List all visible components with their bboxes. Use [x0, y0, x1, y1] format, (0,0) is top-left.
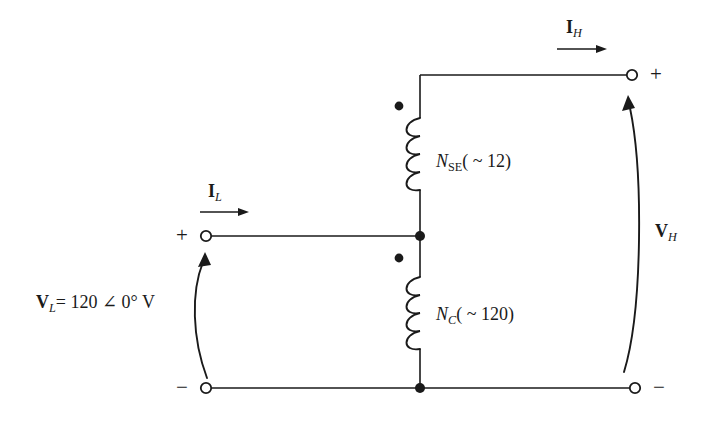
current-arrow-high-side-head	[596, 45, 607, 53]
terminal-low-side-negative	[201, 383, 211, 393]
polarity-sign-high-side-positive: +	[650, 64, 662, 85]
current-label-low-side: IL	[208, 182, 222, 200]
polarity-dot-common-winding	[395, 254, 404, 263]
current-label-low-side-subscript: L	[215, 190, 222, 204]
voltage-arrow-high-side-arc	[624, 108, 639, 372]
current-label-high-side-symbol: I	[566, 17, 573, 37]
voltage-label-low-side-value: = 120 ∠ 0° V	[56, 292, 155, 312]
winding-label-series-turns: ( ~ 12)	[462, 151, 511, 171]
voltage-label-high-side-symbol: V	[655, 221, 668, 241]
terminal-low-side-positive	[201, 231, 211, 241]
voltage-arrow-low-side-arc	[195, 262, 207, 378]
winding-label-common-turns: ( ~ 120)	[456, 304, 514, 324]
terminal-high-side-positive	[627, 70, 637, 80]
polarity-sign-low-side-positive: +	[176, 225, 188, 246]
winding-label-common-subscript: C	[448, 313, 456, 327]
winding-label-common-symbol: N	[436, 304, 448, 324]
voltage-label-low-side: VL= 120 ∠ 0° V	[36, 293, 155, 311]
voltage-label-low-side-symbol: V	[36, 292, 49, 312]
series-winding-coil	[407, 118, 421, 190]
winding-label-common: NC( ~ 120)	[436, 305, 514, 323]
autotransformer-schematic	[0, 0, 727, 428]
current-label-high-side-subscript: H	[573, 26, 582, 40]
junction-dot-bottom	[415, 383, 425, 393]
winding-label-series: NSE( ~ 12)	[436, 152, 511, 170]
voltage-arrow-high-side-head	[622, 95, 635, 111]
common-winding-coil	[407, 277, 421, 349]
terminal-high-side-negative	[630, 383, 640, 393]
voltage-arrow-low-side-head	[198, 252, 211, 267]
polarity-sign-high-side-negative: −	[653, 377, 665, 398]
current-label-high-side: IH	[566, 18, 582, 36]
voltage-label-low-side-subscript: L	[49, 301, 56, 315]
polarity-sign-low-side-negative: −	[176, 377, 188, 398]
voltage-label-high-side: VH	[655, 222, 677, 240]
circuit-diagram-canvas: IH + NSE( ~ 12) IL + VH VL= 120 ∠ 0° V N…	[0, 0, 727, 428]
voltage-label-high-side-subscript: H	[668, 230, 677, 244]
polarity-dot-series-winding	[395, 102, 404, 111]
winding-label-series-subscript: SE	[448, 160, 462, 174]
current-label-low-side-symbol: I	[208, 181, 215, 201]
winding-label-series-symbol: N	[436, 151, 448, 171]
current-arrow-low-side-head	[238, 208, 249, 216]
